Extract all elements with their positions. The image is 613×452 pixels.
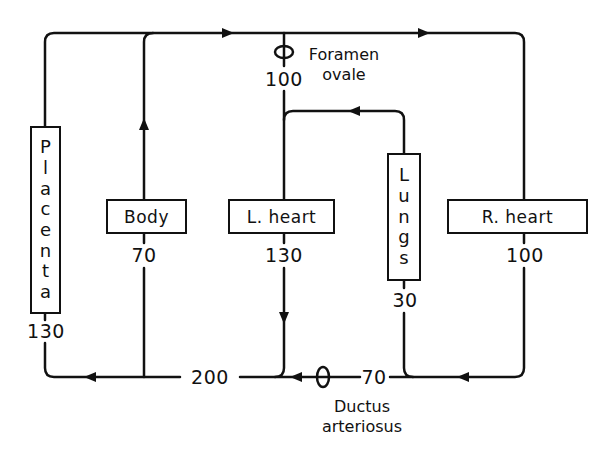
lheart-down-line: [275, 268, 284, 377]
placenta-letter: t: [42, 261, 49, 282]
ductus-arteriosus-value: 70: [361, 368, 386, 387]
lungs-letter: L: [399, 165, 409, 186]
lungs-letter: n: [398, 207, 409, 228]
ductus-arteriosus-line1: Ductus: [322, 397, 402, 417]
arrow-left-icon: [348, 106, 360, 116]
ductus-arteriosus-line2: arteriosus: [322, 417, 402, 437]
l-heart-label: L. heart: [247, 207, 317, 227]
arrow-left-icon: [290, 372, 302, 382]
lungs-value: 30: [392, 291, 417, 310]
arrow-left-icon: [84, 372, 96, 382]
placenta-letter: l: [43, 158, 48, 179]
foramen-ovale-value: 100: [265, 70, 303, 89]
rheart-down-line: [390, 268, 524, 377]
body-value: 70: [131, 246, 156, 265]
l-heart-value: 130: [265, 246, 303, 265]
arrow-up-icon: [139, 118, 149, 130]
placenta-letter: c: [41, 199, 51, 220]
placenta-letter: a: [40, 179, 51, 200]
placenta-box: P l a c e n t a: [30, 126, 61, 314]
body-label: Body: [124, 207, 169, 227]
body-to-top-line: [144, 33, 153, 199]
arrow-down-icon: [279, 312, 289, 324]
foramen-ovale-line1: Foramen: [309, 45, 379, 65]
r-heart-label: R. heart: [482, 207, 553, 227]
foramen-ovale-line2: ovale: [309, 65, 379, 85]
foramen-ovale-caption: Foramen ovale: [309, 45, 379, 85]
lungs-box: L u n g s: [387, 153, 421, 281]
placenta-return-line: [45, 343, 180, 377]
body-box: Body: [106, 199, 187, 234]
arrow-left-icon: [457, 372, 469, 382]
placenta-value: 130: [27, 322, 65, 341]
arrow-right-icon: [222, 28, 234, 38]
lungs-letter: s: [399, 248, 408, 269]
placenta-letter: n: [40, 241, 51, 262]
r-heart-box: R. heart: [447, 199, 588, 234]
placenta-letter: a: [40, 282, 51, 303]
lungs-to-lheart-line: [284, 111, 404, 153]
lungs-down-line: [404, 313, 413, 377]
placenta-letter: P: [40, 137, 51, 158]
arrow-right-icon: [418, 28, 430, 38]
bottom-trunk-value: 200: [191, 368, 229, 387]
lungs-letter: g: [398, 227, 409, 248]
r-heart-value: 100: [506, 246, 544, 265]
l-heart-box: L. heart: [228, 199, 335, 234]
placenta-letter: e: [40, 220, 51, 241]
ductus-arteriosus-caption: Ductus arteriosus: [322, 397, 402, 437]
lungs-letter: u: [398, 186, 409, 207]
